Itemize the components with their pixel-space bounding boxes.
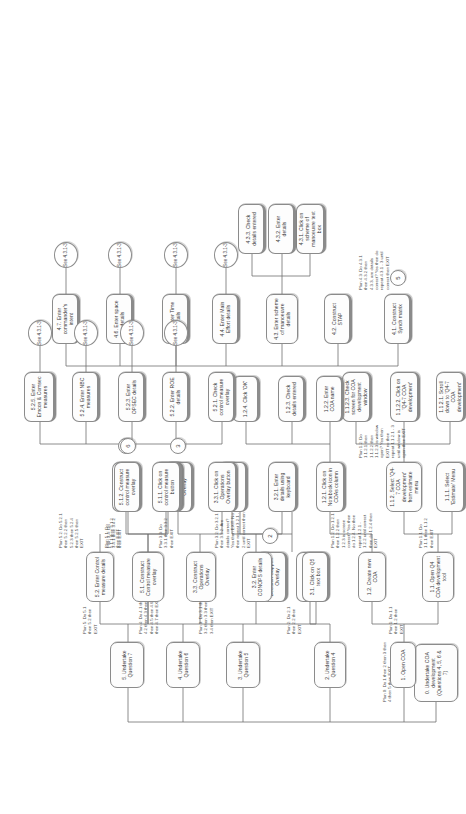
task-node-1-1-2-1[interactable]: 1.1.2.1. Scroll down to 'Q4-7 COA develo… (436, 372, 466, 422)
plan-3-2: Plan 3.2: Do 3.2.1 then 3.2.2. Are detai… (214, 512, 252, 548)
task-node-4-1[interactable]: 4.1. Construct Synch matrix (384, 294, 412, 344)
plan-5-1: Plan 5.1: Do 5.1.1 then 5.1.2 then EXIT (104, 516, 120, 548)
task-node-4-3-2[interactable]: 4.3.2. Enter details (268, 204, 296, 254)
task-node-3-3[interactable]: 3.3. Construct Operations Overlay (186, 552, 216, 602)
task-node-1-1-2[interactable]: 1.1.2. Select 'Q4-7 COA development' fro… (386, 462, 422, 512)
plan-4-3: Plan 4.3: Do 4.3.1 then 4.3.2 then 4.3.3… (358, 250, 390, 290)
task-node-3-2-1[interactable]: 3.2.1. Enter details using keyboard (268, 462, 298, 512)
task-node-5-2-1[interactable]: 5.2.1. Check control measure overlay (208, 372, 236, 422)
task-node-5-2-2[interactable]: 5.2.2. Enter ROE details (162, 372, 190, 422)
task-node-3-3-1[interactable]: 3.3.1. Click on Operations Overlay butto… (208, 462, 238, 512)
task-node-1-2-3[interactable]: 1.2.3. Check details entered (278, 376, 306, 422)
reference-4-4: See 4.3.1-3 (214, 242, 238, 268)
reference-4-7: See 4.3.1-3 (54, 242, 78, 268)
task-node-5-2-4[interactable]: 5.2.4. Enter NBC measures (72, 372, 100, 422)
task-node-3-2[interactable]: 3.2. Enter CONOPS details (242, 552, 272, 602)
reference-5-2-5: See 4.3.1-3 (28, 320, 52, 346)
reference-4-6: See 4.3.1-3 (108, 242, 132, 268)
task-node-4-3-3[interactable]: 4.3.3. Check details entered (238, 204, 266, 254)
task-node-4-3-1[interactable]: 4.3.1. Click on scheme of manoeuvre text… (296, 204, 326, 254)
task-node-5-1-2[interactable]: 5.1.2. Construct control measure overlay (114, 462, 142, 512)
task-node-1-2[interactable]: 1.2. Create new COA (358, 552, 386, 602)
reference-4-5: See 4.3.1-3 (164, 242, 188, 268)
connector-2: 2 (262, 528, 278, 544)
task-node-1-1[interactable]: 1.1. Open Q4 COA development tool (422, 552, 454, 602)
task-node-2[interactable]: 2. Undertake Question 4 (314, 642, 346, 688)
task-node-4-3[interactable]: 4.3. Enter scheme of manoeuvre details (266, 294, 298, 344)
task-node-4-2[interactable]: 4.2. Construct STAP (324, 294, 352, 344)
connector-6: 6 (120, 438, 136, 454)
task-node-1[interactable]: 1. Open COA (390, 642, 416, 688)
connector-5: 5 (390, 270, 406, 286)
task-node-5[interactable]: 5. Undertake Question 7 (110, 642, 144, 688)
task-node-3-1[interactable]: 3.1. Click on Q5 text box (302, 552, 330, 602)
task-node-1-2-4[interactable]: 1.2.4. Click 'OK' (232, 376, 260, 422)
task-node-1-1-2-3[interactable]: 1.1.2.3. Check screen for COA developmen… (342, 372, 372, 422)
task-node-4[interactable]: 4. Undertake Question 6 (166, 642, 200, 688)
task-node-5-1[interactable]: 5.1. Construct Control measure overlay (132, 552, 164, 602)
task-node-1-1-2-2[interactable]: 1.1.2.2. Click on 'Q4-7 COA development' (390, 372, 420, 422)
plan-1-2: Plan 1.2: Do 1.2.1 then 1.2.2 then 1.2.3… (330, 512, 378, 548)
task-node-5-2-5[interactable]: 5.2.5. Enter Emcon & Comsec measures (24, 372, 56, 422)
reference-5-2-4: See 4.3.1-3 (74, 320, 98, 346)
connector-3: 3 (170, 438, 186, 454)
task-node-1-2-1[interactable]: 1.2.1. Click on Notebook icon in COAs co… (316, 462, 346, 512)
plan-5: Plan 5: Do 5.1 then 5.2 then EXIT (82, 600, 98, 634)
plan-1-1: Plan 1.1: Do 1.1.1 then 1.1.2 then EXIT (418, 514, 434, 548)
task-node-5-1-1[interactable]: 5.1.1. Click on control measure button (152, 462, 182, 512)
task-node-4-4[interactable]: 4.4. Enter Main Effort details (212, 294, 240, 344)
task-node-5-2-3[interactable]: 5.2.3. Enter OPSEC details (118, 372, 146, 422)
reference-5-2-3: See 4.3.1-3 (120, 320, 144, 346)
task-node-1-1-1[interactable]: 1.1.1. Select 'Estimate' Menu (436, 462, 466, 512)
plan-3-3: Plan 3.3: Do 3.3.1 then 3.3.2 then EXIT (158, 514, 174, 548)
task-node-0[interactable]: 0. Undertake COA development (Questions … (414, 644, 458, 702)
task-node-5-2[interactable]: 5.2. Enter Control measure details (86, 552, 114, 602)
plan-2: Plan 2: Do 2.1 then 2.2 then EXIT (286, 600, 302, 634)
plan-5-2: Plan 5.2: Do 5.2.1 then 5.2.2 then 5.2.3… (58, 512, 85, 548)
plan-1: Plan 1: Do 1.1 then 1.2 then EXIT (388, 600, 404, 634)
task-node-1-2-2[interactable]: 1.2.2. Enter COA name (316, 376, 344, 422)
task-node-3[interactable]: 3. Undertake Question 5 (226, 642, 260, 688)
plan-1-1-2: Plan 1.2: Do 1.1.2.1 then 1.1.2.2 then 1… (358, 422, 406, 458)
reference-5-2-2: See 4.3.1-3 (164, 320, 188, 346)
